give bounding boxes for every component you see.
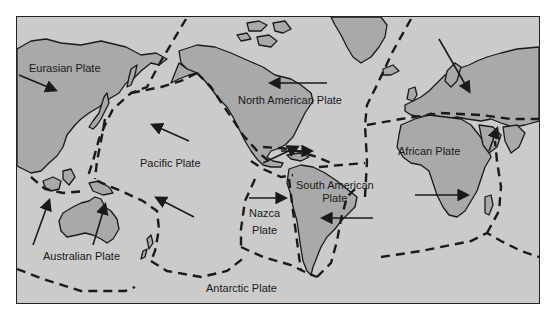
label-nazca-line2: Plate xyxy=(249,224,280,237)
label-north-american-plate: North American Plate xyxy=(238,94,342,107)
landmass-new-zealand-south xyxy=(141,249,147,259)
label-south-american-line2: Plate xyxy=(296,192,374,205)
label-south-american-plate: South American Plate xyxy=(296,179,374,205)
landmass-greenland xyxy=(331,17,387,63)
map-frame: Eurasian Plate North American Plate Paci… xyxy=(16,16,540,304)
label-australian-plate: Australian Plate xyxy=(43,250,120,263)
boundary-australia-west xyxy=(17,269,135,291)
label-antarctic-plate: Antarctic Plate xyxy=(206,282,277,295)
label-nazca-plate: Nazca Plate xyxy=(249,207,280,237)
arrow-australian-west xyxy=(33,201,49,245)
landmass-new-zealand xyxy=(147,235,153,249)
boundary-caribbean-atlantic xyxy=(319,163,365,167)
label-south-american-line1: South American xyxy=(296,179,374,192)
landmass-borneo xyxy=(63,169,75,185)
landmass-arctic-island-2 xyxy=(237,33,251,41)
boundary-australia-antarctic xyxy=(151,257,245,277)
label-pacific-plate: Pacific Plate xyxy=(140,157,201,170)
landmass-australia xyxy=(59,197,119,243)
label-eurasian-plate: Eurasian Plate xyxy=(29,62,101,75)
landmass-caribbean xyxy=(287,153,309,161)
boundary-antarctic-africa xyxy=(381,233,539,257)
arrow-pacific-north xyxy=(153,125,189,141)
label-african-plate: African Plate xyxy=(398,145,460,158)
landmass-india xyxy=(503,125,525,153)
landmass-british-isles xyxy=(407,87,417,101)
landmass-madagascar xyxy=(485,195,493,215)
landmass-africa xyxy=(397,115,491,217)
landmass-arctic-island-4 xyxy=(273,21,291,33)
landmass-arctic-island-1 xyxy=(247,21,267,31)
arrow-pacific-south xyxy=(157,198,194,217)
label-nazca-line1: Nazca xyxy=(249,207,280,220)
landmass-eurasia-east xyxy=(17,39,167,173)
landmass-arctic-island-3 xyxy=(257,35,277,47)
